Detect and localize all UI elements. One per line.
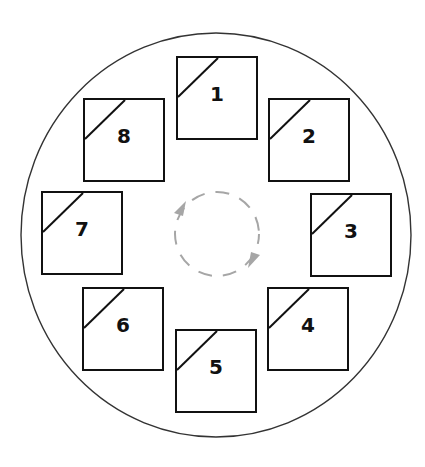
slot-label: 6 <box>84 313 162 337</box>
slot-label: 2 <box>270 124 348 148</box>
arrow-down-icon <box>248 252 260 268</box>
slot-7: 7 <box>41 191 123 275</box>
slot-label: 7 <box>43 217 121 241</box>
slot-label: 4 <box>269 313 347 337</box>
slot-2: 2 <box>268 98 350 182</box>
slot-label: 3 <box>312 219 390 243</box>
slot-6: 6 <box>82 287 164 371</box>
slot-label: 5 <box>177 355 255 379</box>
slot-5: 5 <box>175 329 257 413</box>
rotation-indicator <box>174 192 260 276</box>
slot-label: 1 <box>178 82 256 106</box>
carousel-diagram: 1 2 3 4 5 6 7 8 <box>0 0 425 467</box>
slot-1: 1 <box>176 56 258 140</box>
arrow-up-icon <box>174 201 186 216</box>
slot-label: 8 <box>85 124 163 148</box>
slot-4: 4 <box>267 287 349 371</box>
slot-3: 3 <box>310 193 392 277</box>
slot-8: 8 <box>83 98 165 182</box>
